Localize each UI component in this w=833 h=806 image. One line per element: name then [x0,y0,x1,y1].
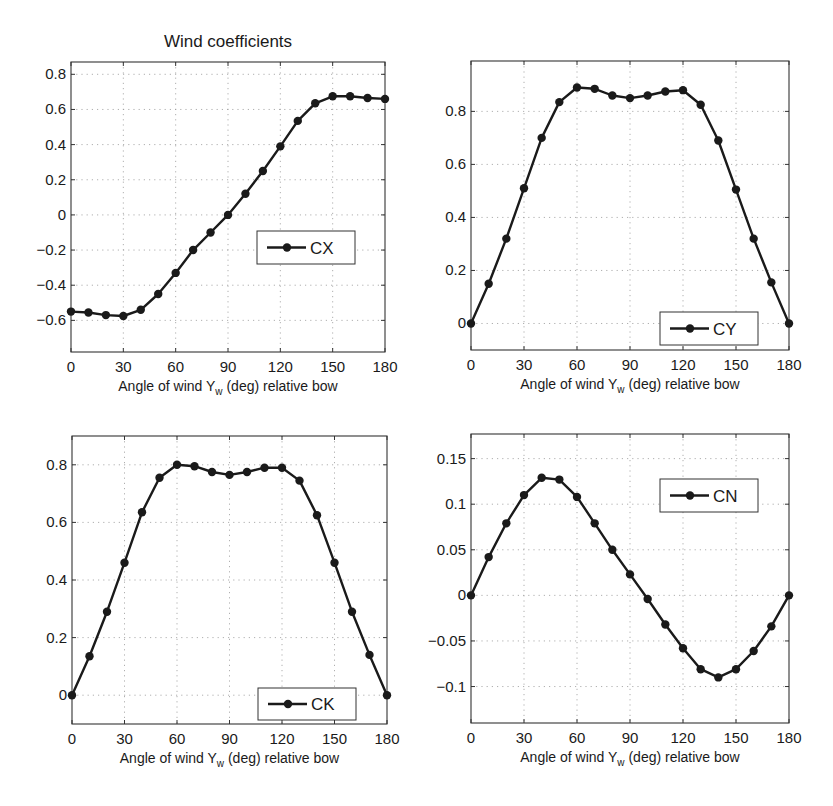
data-point [243,468,251,476]
data-point [679,86,687,94]
data-point [294,117,302,125]
x-tick-label: 90 [622,356,639,373]
data-point [643,91,651,99]
data-point [767,622,775,630]
x-tick-label: 180 [372,358,397,375]
data-point [590,519,598,527]
y-tick-label: 0.4 [46,571,67,588]
data-point [484,553,492,561]
data-point [155,474,163,482]
data-point [767,278,775,286]
y-tick-label: 0.4 [445,208,466,225]
data-point [84,308,92,316]
x-tick-label: 180 [776,356,801,373]
data-point [67,307,75,315]
y-tick-label: −0.4 [36,276,66,293]
data-point [590,85,598,93]
data-point [643,595,651,603]
data-point [749,647,757,655]
legend-marker-icon [283,243,291,251]
x-tick-label: 120 [670,729,695,746]
data-point [608,546,616,554]
data-point [224,211,232,219]
data-point [573,83,581,91]
data-point [714,673,722,681]
x-tick-label: 60 [569,729,586,746]
y-tick-label: 0 [59,686,67,703]
legend-label: CX [310,239,334,258]
x-tick-label: 150 [723,356,748,373]
data-point [278,463,286,471]
data-point [348,607,356,615]
legend-cx: CX [257,231,355,264]
x-tick-label: 150 [723,729,748,746]
data-point [383,691,391,699]
y-tick-label: 0.6 [46,513,67,530]
y-tick-label: 0.1 [445,495,466,512]
data-point [137,306,145,314]
data-point [661,87,669,95]
data-point [502,519,510,527]
y-tick-label: 0 [458,586,466,603]
x-tick-label: 0 [67,358,75,375]
y-tick-label: 0.2 [46,629,67,646]
y-tick-label: 0.2 [45,171,66,188]
data-point [120,559,128,567]
data-point [626,570,634,578]
data-point [330,559,338,567]
x-tick-label: 90 [622,729,639,746]
x-tick-label: 90 [221,730,238,747]
data-point [190,462,198,470]
data-point [785,591,793,599]
legend-cy: CY [660,312,758,345]
data-point [119,312,127,320]
data-point [363,94,371,102]
data-point [171,269,179,277]
data-point [573,493,581,501]
data-point [785,319,793,327]
data-point [102,311,110,319]
data-point [365,651,373,659]
legend-marker-icon [284,700,292,708]
data-point [173,461,181,469]
data-point [381,95,389,103]
data-point [520,184,528,192]
data-point [85,652,93,660]
data-point [661,620,669,628]
y-tick-label: −0.05 [428,632,466,649]
data-point [502,234,510,242]
data-point [103,607,111,615]
y-tick-label: 0.8 [46,456,67,473]
data-point [328,92,336,100]
x-tick-label: 30 [516,356,533,373]
y-tick-label: 0.6 [445,155,466,172]
x-tick-label: 60 [569,356,586,373]
data-point [241,190,249,198]
y-tick-label: −0.1 [436,678,466,695]
data-point [555,98,563,106]
legend-label: CY [713,320,737,339]
figure-title: Wind coefficients [164,32,292,51]
y-tick-label: 0.8 [445,102,466,119]
y-tick-label: 0 [58,206,66,223]
x-tick-label: 30 [516,729,533,746]
legend-marker-icon [686,324,694,332]
data-point [259,167,267,175]
x-tick-label: 180 [776,729,801,746]
x-tick-label: 90 [220,358,237,375]
data-point [313,511,321,519]
y-tick-label: 0 [458,314,466,331]
data-point [260,463,268,471]
data-point [208,468,216,476]
wind-coefficients-figure: Wind coefficients 0306090120150180−0.6−0… [0,0,833,806]
x-tick-label: 150 [322,730,347,747]
data-point [537,134,545,142]
data-point [68,691,76,699]
legend-label: CK [311,695,335,714]
data-point [138,508,146,516]
y-tick-label: 0.05 [437,541,466,558]
data-point [537,474,545,482]
data-point [467,319,475,327]
data-point [467,591,475,599]
data-point [555,475,563,483]
